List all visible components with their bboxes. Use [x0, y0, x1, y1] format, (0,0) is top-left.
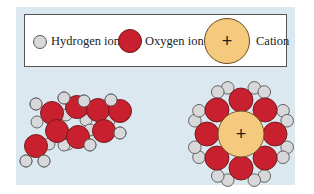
hydrogen-ion	[193, 104, 206, 117]
oxygen-ion	[46, 120, 69, 143]
hydrogen-ion	[78, 95, 90, 107]
hydrogen-ion	[58, 92, 70, 104]
hydrogen-ion	[211, 170, 224, 183]
hydrogen-ion	[84, 139, 96, 151]
hydrogen-ion	[277, 151, 290, 164]
hydrogen-ion	[20, 155, 32, 167]
hydrogen-ion	[114, 127, 126, 139]
hydrogen-ion	[258, 86, 271, 99]
hydrogen-ion	[105, 94, 117, 106]
oxygen-ion	[25, 135, 48, 158]
oxygen-ion	[263, 122, 287, 146]
hydrogen-ion	[30, 98, 42, 110]
oxygen-ion	[229, 156, 253, 180]
molecules-svg: +	[0, 0, 314, 194]
hydrogen-ion	[211, 86, 224, 99]
hydrogen-ion	[38, 155, 50, 167]
oxygen-ion	[195, 122, 219, 146]
oxygen-ion	[229, 88, 253, 112]
hydrated-cation: +	[189, 82, 294, 187]
cation-plus-symbol: +	[236, 124, 247, 144]
water-cluster	[20, 92, 132, 167]
oxygen-ion	[93, 120, 116, 143]
